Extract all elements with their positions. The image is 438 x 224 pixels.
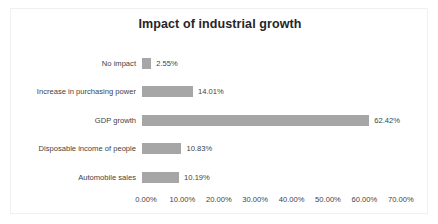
category-label: Disposable income of people xyxy=(11,144,142,153)
chart-container: Impact of industrial growth No impact2.5… xyxy=(10,8,428,214)
category-label: Increase in purchasing power xyxy=(11,87,142,96)
bar-value-label: 14.01% xyxy=(198,87,224,96)
x-tick-label: 60.00% xyxy=(352,195,378,204)
category-label: No impact xyxy=(11,59,142,68)
x-tick-label: 50.00% xyxy=(315,195,341,204)
bar[interactable] xyxy=(142,58,151,69)
x-tick-label: 20.00% xyxy=(206,195,232,204)
bar[interactable] xyxy=(142,172,179,183)
bar-track: 10.83% xyxy=(142,135,429,163)
bar[interactable] xyxy=(142,86,193,97)
bar-row: Automobile sales10.19% xyxy=(11,163,429,191)
category-label: Automobile sales xyxy=(11,173,142,182)
bar-row: No impact2.55% xyxy=(11,49,429,77)
bar-value-label: 10.19% xyxy=(184,173,210,182)
bar-track: 2.55% xyxy=(142,49,429,77)
bar-value-label: 2.55% xyxy=(156,59,178,68)
x-tick-label: 0.00% xyxy=(135,195,157,204)
bar-track: 10.19% xyxy=(142,163,429,191)
x-axis: 0.00%10.00%20.00%30.00%40.00%50.00%60.00… xyxy=(11,195,429,209)
bar[interactable] xyxy=(142,115,369,126)
bar-track: 62.42% xyxy=(142,106,429,134)
bar-value-label: 62.42% xyxy=(374,116,400,125)
plot-area: No impact2.55%Increase in purchasing pow… xyxy=(11,47,429,187)
chart-title: Impact of industrial growth xyxy=(11,17,429,31)
bar[interactable] xyxy=(142,143,181,154)
bar-row: GDP growth62.42% xyxy=(11,106,429,134)
bar-row: Disposable income of people10.83% xyxy=(11,135,429,163)
x-tick-label: 30.00% xyxy=(242,195,268,204)
x-tick-label: 40.00% xyxy=(279,195,305,204)
category-label: GDP growth xyxy=(11,116,142,125)
bar-row: Increase in purchasing power14.01% xyxy=(11,78,429,106)
bar-track: 14.01% xyxy=(142,78,429,106)
x-tick-label: 10.00% xyxy=(170,195,196,204)
bar-value-label: 10.83% xyxy=(186,144,212,153)
x-tick-label: 70.00% xyxy=(388,195,414,204)
